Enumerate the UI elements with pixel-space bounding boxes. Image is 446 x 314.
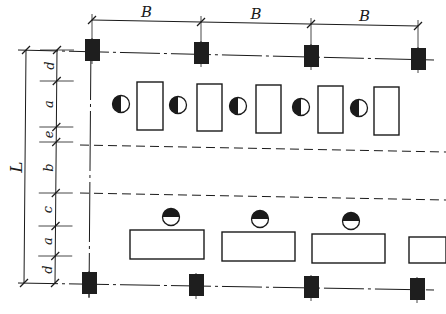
aisle-line	[80, 193, 446, 200]
operator-icon	[343, 213, 360, 230]
operator-icon	[170, 97, 187, 114]
machine-tool	[130, 230, 204, 259]
machine-tool	[409, 237, 446, 263]
machine-tool	[374, 87, 399, 135]
machine-tool	[256, 85, 281, 133]
machine-tool	[318, 86, 343, 133]
dimension-label-a: a	[41, 100, 56, 108]
operator-icon	[163, 209, 180, 226]
dimension-label-b: b	[41, 163, 56, 171]
dimension-label-e: e	[41, 130, 56, 138]
column-icon	[410, 278, 425, 300]
operator-icon	[113, 96, 130, 113]
aisle-line	[80, 145, 446, 152]
column-icon	[189, 274, 204, 296]
dimension-label-c: c	[40, 205, 55, 213]
machine-tool	[197, 84, 222, 131]
column-icon	[304, 45, 319, 67]
dimension-label-a: a	[40, 237, 55, 245]
column-axis-left	[89, 40, 91, 298]
operator-icon	[252, 211, 269, 228]
column-icon	[194, 42, 209, 64]
machine-tool	[222, 232, 295, 261]
dimension-label-L: L	[6, 161, 26, 173]
operator-icon	[293, 99, 310, 116]
column-icon	[304, 276, 319, 298]
dimension-label-d: d	[40, 265, 55, 273]
machine-tool	[312, 234, 385, 263]
span-label-B: B	[358, 7, 370, 25]
column-icon	[82, 272, 97, 294]
column-icon	[85, 39, 100, 61]
operator-icon	[351, 100, 368, 117]
span-label-B: B	[249, 5, 261, 23]
column-axis-top	[18, 50, 434, 60]
layout-drawing: BBBLdaebcad	[0, 0, 446, 314]
operator-icon	[230, 98, 247, 115]
column-icon	[411, 48, 426, 70]
span-label-B: B	[140, 3, 152, 21]
column-axis-bottom	[18, 283, 434, 290]
machine-tool	[137, 82, 163, 130]
dimension-label-d: d	[42, 61, 57, 69]
